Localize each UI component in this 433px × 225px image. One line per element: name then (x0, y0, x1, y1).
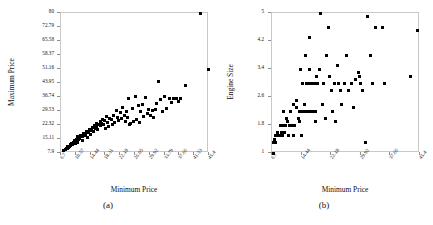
data-point (322, 82, 325, 85)
data-point (207, 68, 210, 71)
data-point (139, 110, 142, 113)
data-point (127, 97, 130, 100)
panel-a: Maximum Price 7.915.1122.3229.5336.7443.… (0, 0, 216, 225)
data-point (124, 120, 127, 123)
panel-b: Engine Size 11.82.63.44.25 6.714.4422.18… (216, 0, 432, 225)
y-tick-label: 80 (49, 9, 54, 14)
y-tick-label: 5 (261, 9, 264, 14)
data-point (366, 15, 369, 18)
data-point (287, 134, 290, 137)
data-point (416, 29, 419, 32)
data-point (295, 99, 298, 102)
data-point (350, 82, 353, 85)
data-point (199, 12, 202, 15)
data-point (374, 26, 377, 29)
data-point (170, 101, 173, 104)
data-point (319, 12, 322, 15)
y-axis-labels-b: 11.82.63.44.25 (238, 12, 268, 152)
data-point (343, 82, 346, 85)
data-point (345, 54, 348, 57)
data-point (107, 125, 110, 128)
y-tick-label: 15.11 (43, 135, 54, 140)
data-point (314, 120, 317, 123)
data-point (316, 82, 319, 85)
x-tick-label: 45.4 (418, 150, 428, 160)
data-point (409, 75, 412, 78)
data-point (165, 107, 168, 110)
y-axis-title-b: Engine Size (227, 52, 235, 112)
plot-area-a (60, 12, 208, 152)
data-point (352, 106, 355, 109)
data-point (146, 112, 149, 115)
data-point (308, 68, 311, 71)
data-point (314, 110, 317, 113)
x-tick-label: 6.7 (270, 152, 278, 160)
data-point (281, 134, 284, 137)
data-point (347, 89, 350, 92)
data-point (142, 115, 145, 118)
y-tick-label: 1.8 (258, 121, 264, 126)
data-point (106, 121, 109, 124)
data-point (299, 68, 302, 71)
data-point (92, 130, 95, 133)
panel-caption-b: (b) (216, 200, 432, 210)
data-point (86, 136, 89, 139)
y-tick-label: 1 (261, 149, 264, 154)
plot-area-b (271, 12, 419, 152)
data-point (381, 26, 384, 29)
data-point (327, 26, 330, 29)
data-point (284, 124, 287, 127)
y-tick-label: 22.32 (42, 121, 54, 126)
data-point (161, 110, 164, 113)
data-point (383, 82, 386, 85)
y-tick-label: 29.53 (42, 107, 54, 112)
data-point (115, 109, 118, 112)
data-point (154, 108, 157, 111)
data-point (152, 116, 155, 119)
data-point (339, 89, 342, 92)
data-point (147, 108, 150, 111)
data-point (359, 82, 362, 85)
data-point (163, 95, 166, 98)
data-point (369, 54, 372, 57)
panel-caption-a: (a) (0, 200, 216, 210)
x-tick-label: 6.7 (59, 152, 67, 160)
y-tick-label: 4.2 (258, 37, 264, 42)
data-point (89, 133, 92, 136)
data-point (289, 110, 292, 113)
data-point (298, 120, 301, 123)
data-point (135, 118, 138, 121)
y-tick-label: 7.9 (48, 149, 54, 154)
data-point (334, 120, 337, 123)
data-point (358, 75, 361, 78)
data-point (96, 128, 99, 131)
data-point (110, 118, 113, 121)
data-point (304, 54, 307, 57)
data-point (81, 139, 84, 142)
data-point (126, 116, 129, 119)
data-point (325, 54, 328, 57)
data-point (76, 141, 79, 144)
y-tick-label: 36.74 (42, 93, 54, 98)
x-axis-title-b: Minimum Price (271, 186, 419, 194)
data-point (177, 100, 180, 103)
data-point (324, 117, 327, 120)
data-point (331, 110, 334, 113)
data-point (121, 106, 124, 109)
data-point (119, 111, 122, 114)
data-point (282, 110, 285, 113)
data-point (120, 117, 123, 120)
data-point (283, 131, 286, 134)
data-point (113, 121, 116, 124)
data-point (303, 103, 306, 106)
y-tick-label: 43.95 (42, 79, 54, 84)
y-tick-label: 65.58 (42, 37, 54, 42)
data-point (354, 78, 357, 81)
figure-two-scatter-panels: Maximum Price 7.915.1122.3229.5336.7443.… (0, 0, 433, 225)
y-tick-label: 72.79 (42, 23, 54, 28)
x-axis-title-a: Minimum Price (60, 186, 208, 194)
data-point (179, 97, 182, 100)
data-point (321, 103, 324, 106)
data-point (333, 82, 336, 85)
data-point (132, 120, 135, 123)
